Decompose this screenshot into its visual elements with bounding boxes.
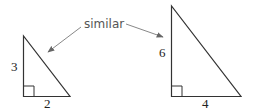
small-vertical-label: 3 xyxy=(11,59,18,74)
large-vertical-label: 6 xyxy=(159,45,166,60)
small-triangle-shape xyxy=(24,36,71,97)
small-right-angle-marker xyxy=(24,86,35,97)
similar-triangles-diagram: similar 3 2 6 4 xyxy=(0,0,253,110)
large-triangle: 6 4 xyxy=(159,6,241,110)
similar-caption: similar xyxy=(84,17,124,31)
large-right-angle-marker xyxy=(172,86,183,97)
large-triangle-shape xyxy=(172,6,242,97)
small-horizontal-label: 2 xyxy=(44,96,51,110)
large-horizontal-label: 4 xyxy=(202,96,209,110)
small-triangle: 3 2 xyxy=(11,36,70,110)
arrow-to-small-triangle xyxy=(48,27,81,52)
arrow-to-large-triangle xyxy=(126,24,163,37)
